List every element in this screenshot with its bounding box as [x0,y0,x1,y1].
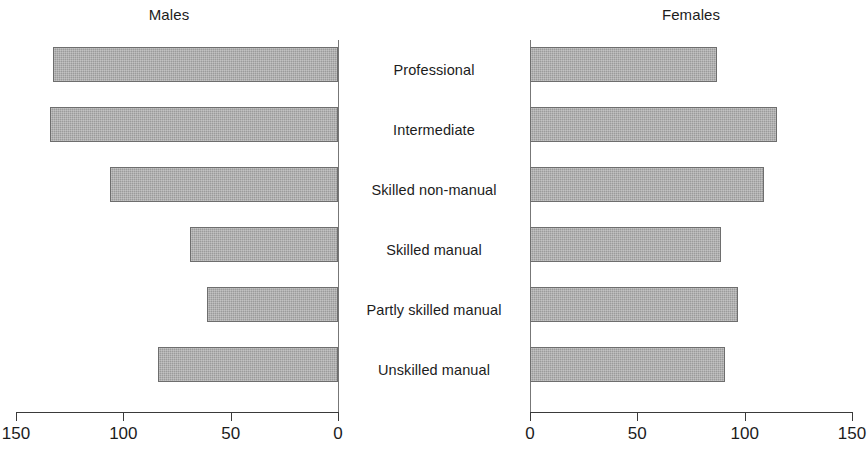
bar-females-partly-skilled-manual [530,287,738,322]
x-axis-tick [530,412,531,421]
bar-row [530,340,852,400]
panel-title-females: Females [530,6,852,23]
bar-row [16,40,338,100]
category-label: Partly skilled manual [338,280,530,340]
x-axis-tick-label: 0 [333,424,342,444]
x-axis-tick [123,412,124,421]
x-axis-tick [637,412,638,421]
x-axis-tick [231,412,232,421]
bar-females-professional [530,47,717,82]
plot-area-males [16,40,338,412]
bar-row [16,280,338,340]
bar-row [16,100,338,160]
bar-females-skilled-non-manual [530,167,764,202]
panel-title-males: Males [0,6,338,23]
x-axis-tick-label: 50 [628,424,647,444]
back-to-back-bar-chart: Males Females ProfessionalIntermediateSk… [0,0,868,463]
bar-males-professional [53,47,339,82]
bar-row [530,220,852,280]
x-axis-males [16,412,338,413]
category-label: Intermediate [338,100,530,160]
plot-area-females [530,40,852,412]
bar-females-intermediate [530,107,777,142]
bar-row [530,100,852,160]
x-axis-females [530,412,852,413]
x-axis-tick-label: 150 [838,424,866,444]
x-axis-tick [852,412,853,421]
x-axis-tick-label: 100 [730,424,758,444]
category-label: Professional [338,40,530,100]
x-axis-tick-label: 0 [525,424,534,444]
x-axis-tick-label: 50 [221,424,240,444]
bar-males-partly-skilled-manual [207,287,338,322]
category-label: Skilled manual [338,220,530,280]
bar-row [530,40,852,100]
bar-males-unskilled-manual [158,347,338,382]
category-label-column: ProfessionalIntermediateSkilled non-manu… [338,40,530,412]
bar-row [16,220,338,280]
x-axis-tick-label: 150 [2,424,30,444]
x-axis-tick [745,412,746,421]
category-label: Skilled non-manual [338,160,530,220]
bar-females-skilled-manual [530,227,721,262]
bar-row [530,160,852,220]
x-axis-tick [16,412,17,421]
x-axis-tick [338,412,339,421]
x-axis-tick-label: 100 [109,424,137,444]
category-label: Unskilled manual [338,340,530,400]
bar-row [16,340,338,400]
bar-males-skilled-non-manual [110,167,338,202]
bar-males-skilled-manual [190,227,338,262]
bar-males-intermediate [50,107,338,142]
bar-females-unskilled-manual [530,347,725,382]
bar-row [16,160,338,220]
bar-row [530,280,852,340]
